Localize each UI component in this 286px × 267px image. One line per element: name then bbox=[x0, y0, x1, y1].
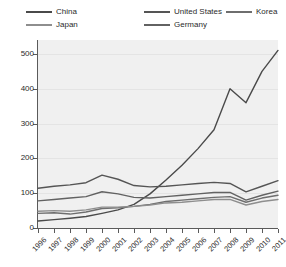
x-axis-tick bbox=[230, 229, 231, 233]
legend-item-china[interactable]: China bbox=[26, 6, 77, 17]
x-axis-label: 2002 bbox=[127, 236, 144, 253]
x-axis-label: 1997 bbox=[47, 236, 64, 253]
x-axis-tick bbox=[70, 229, 71, 233]
legend-item-label: China bbox=[56, 7, 77, 16]
x-axis-label: 1998 bbox=[63, 236, 80, 253]
legend-item-label: Germany bbox=[174, 20, 207, 29]
series-line-china bbox=[38, 50, 278, 221]
legend-item-united-states[interactable]: United States bbox=[144, 6, 222, 17]
x-axis-tick bbox=[102, 229, 103, 233]
x-axis-label: 2004 bbox=[159, 236, 176, 253]
legend-item-korea[interactable]: Korea bbox=[226, 6, 277, 17]
series-line-germany bbox=[38, 191, 278, 201]
legend-item-germany[interactable]: Germany bbox=[144, 19, 207, 30]
x-axis-label: 2003 bbox=[143, 236, 160, 253]
x-axis-line bbox=[37, 228, 278, 229]
legend-swatch-icon bbox=[226, 11, 252, 13]
legend-item-label: Korea bbox=[256, 7, 277, 16]
legend-swatch-icon bbox=[26, 24, 52, 26]
x-axis-tick bbox=[54, 229, 55, 233]
x-axis-tick bbox=[134, 229, 135, 233]
chart-legend: ChinaUnited StatesKoreaJapanGermany bbox=[26, 6, 282, 32]
x-axis-label: 2000 bbox=[95, 236, 112, 253]
x-axis-label: 2001 bbox=[111, 236, 128, 253]
x-axis-label: 2010 bbox=[255, 236, 272, 253]
legend-swatch-icon bbox=[26, 11, 52, 13]
x-axis-tick bbox=[278, 229, 279, 233]
legend-item-japan[interactable]: Japan bbox=[26, 19, 78, 30]
x-axis-label: 2006 bbox=[191, 236, 208, 253]
line-chart: ChinaUnited StatesKoreaJapanGermany 0100… bbox=[0, 0, 286, 267]
y-axis-label: 300 bbox=[10, 120, 34, 128]
x-axis-tick bbox=[262, 229, 263, 233]
series-lines bbox=[38, 40, 278, 228]
x-axis-tick bbox=[166, 229, 167, 233]
y-axis-label: 200 bbox=[10, 154, 34, 162]
x-axis-tick bbox=[118, 229, 119, 233]
x-axis-tick bbox=[150, 229, 151, 233]
legend-item-label: Japan bbox=[56, 20, 78, 29]
x-axis-label: 2011 bbox=[271, 236, 286, 253]
x-axis-tick bbox=[182, 229, 183, 233]
x-axis-tick bbox=[198, 229, 199, 233]
x-axis-label: 2009 bbox=[239, 236, 256, 253]
legend-item-label: United States bbox=[174, 7, 222, 16]
x-axis-label: 2007 bbox=[207, 236, 224, 253]
y-axis-label: 100 bbox=[10, 189, 34, 197]
x-axis-tick bbox=[246, 229, 247, 233]
legend-swatch-icon bbox=[144, 24, 170, 26]
x-axis-label: 2005 bbox=[175, 236, 192, 253]
legend-swatch-icon bbox=[144, 11, 170, 13]
x-axis-label: 2008 bbox=[223, 236, 240, 253]
x-axis-tick bbox=[86, 229, 87, 233]
x-axis-label: 1999 bbox=[79, 236, 96, 253]
x-axis-tick bbox=[38, 229, 39, 233]
x-axis-label: 1996 bbox=[31, 236, 48, 253]
y-axis-label: 500 bbox=[10, 50, 34, 58]
y-axis-label: 400 bbox=[10, 85, 34, 93]
series-line-united-states bbox=[38, 175, 278, 192]
x-axis-tick bbox=[214, 229, 215, 233]
y-axis-label: 0 bbox=[10, 224, 34, 232]
